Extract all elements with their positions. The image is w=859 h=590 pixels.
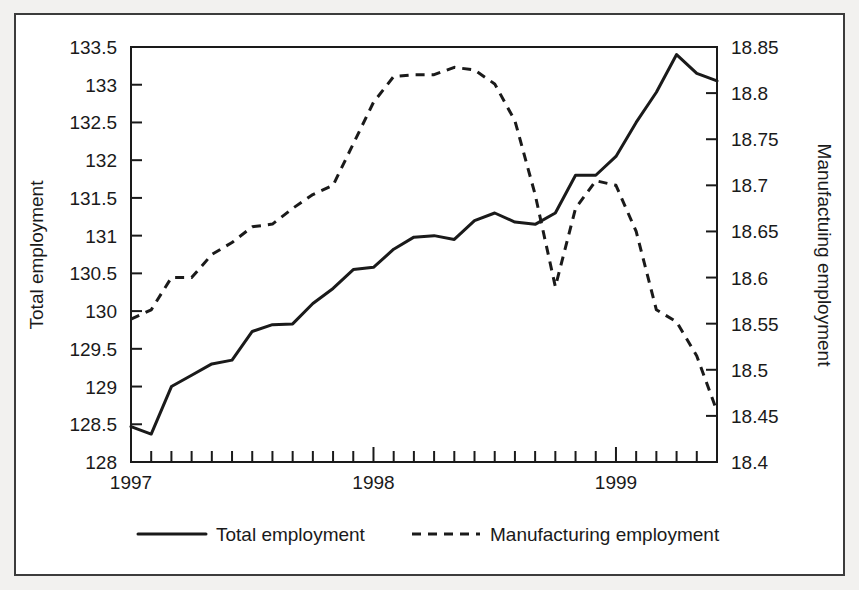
left-tick-label: 128.5: [69, 414, 117, 435]
left-tick-label: 131.5: [69, 188, 117, 209]
legend-label-total-employment: Total employment: [216, 524, 366, 545]
left-axis-title: Total employment: [26, 180, 47, 330]
left-axis-tick-labels: 128128.5129129.5130130.5131131.5132132.5…: [69, 37, 117, 473]
left-axis-ticks: [131, 85, 142, 425]
left-tick-label: 129.5: [69, 339, 117, 360]
right-tick-label: 18.8: [731, 83, 768, 104]
left-tick-label: 130: [85, 301, 117, 322]
legend: Total employment Manufacturing employmen…: [138, 524, 720, 545]
figure-container: 128128.5129129.5130130.5131131.5132132.5…: [0, 0, 859, 590]
series-manufacturing-employment-line: [131, 67, 717, 411]
right-tick-label: 18.65: [731, 221, 779, 242]
plot-frame-rect: [131, 47, 717, 462]
right-tick-label: 18.7: [731, 175, 768, 196]
right-tick-label: 18.4: [731, 452, 768, 473]
left-tick-label: 131: [85, 226, 117, 247]
right-tick-label: 18.5: [731, 360, 768, 381]
x-axis-tick-labels: 199719981999: [110, 472, 637, 493]
legend-label-manufacturing-employment: Manufacturing employment: [490, 524, 720, 545]
left-tick-label: 128: [85, 452, 117, 473]
x-tick-label: 1997: [110, 472, 152, 493]
right-axis-tick-labels: 18.418.4518.518.5518.618.6518.718.7518.8…: [731, 37, 779, 473]
left-tick-label: 130.5: [69, 263, 117, 284]
x-tick-label: 1999: [595, 472, 637, 493]
right-axis-title: Manufactuing employment: [814, 144, 835, 368]
right-tick-label: 18.45: [731, 406, 779, 427]
right-tick-label: 18.6: [731, 268, 768, 289]
left-tick-label: 133.5: [69, 37, 117, 58]
right-tick-label: 18.55: [731, 314, 779, 335]
left-tick-label: 133: [85, 75, 117, 96]
x-tick-label: 1998: [352, 472, 394, 493]
left-tick-label: 132: [85, 150, 117, 171]
x-axis-ticks: [151, 447, 697, 462]
series-total-employment-line: [131, 55, 717, 435]
line-chart: 128128.5129129.5130130.5131131.5132132.5…: [0, 0, 859, 590]
left-tick-label: 132.5: [69, 112, 117, 133]
right-axis-ticks: [706, 93, 717, 416]
right-tick-label: 18.75: [731, 129, 779, 150]
right-tick-label: 18.85: [731, 37, 779, 58]
left-tick-label: 129: [85, 377, 117, 398]
plot-frame: [131, 47, 717, 462]
